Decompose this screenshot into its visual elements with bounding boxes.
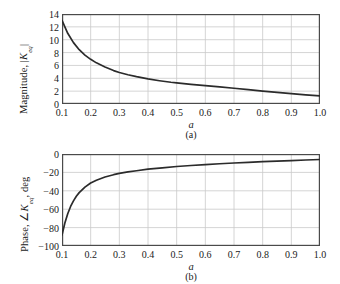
x-tick-a-1: 0.2 [84, 107, 97, 118]
x-tick-b-7: 0.8 [256, 249, 269, 260]
y-axis-symbol-a: K [18, 53, 29, 60]
x-tick-b-8: 0.9 [285, 249, 298, 260]
x-tick-a-3: 0.4 [142, 107, 155, 118]
y-axis-label-suffix-b: , deg [19, 177, 30, 198]
y-axis-angle-icon: ∠ [19, 211, 30, 221]
y-axis-subscript-b: eq [27, 198, 35, 205]
x-tick-a-9: 1.0 [314, 107, 327, 118]
caption-b: (b) [185, 271, 197, 282]
x-tick-a-0: 0.1 [56, 107, 69, 118]
y-tick-a-14: 14 [49, 9, 59, 20]
x-tick-a-6: 0.7 [228, 107, 241, 118]
y-axis-bar-open-a: | [18, 60, 29, 62]
x-tick-a-2: 0.3 [113, 107, 126, 118]
y-tick-a-6: 6 [54, 60, 59, 71]
magnitude-chart-svg [62, 14, 320, 104]
y-axis-label-magnitude: Magnitude, |Keq| [18, 44, 32, 114]
phase-chart-svg [62, 154, 320, 246]
y-tick-b-m20: −20 [43, 167, 59, 178]
panel-magnitude: Magnitude, |Keq| 14 12 10 8 6 4 2 0 0.1 … [0, 0, 340, 142]
x-tick-a-5: 0.6 [199, 107, 212, 118]
panel-phase: Phase, ∠Keq, deg 0 −20 −40 −60 −80 −100 … [0, 142, 340, 284]
x-tick-a-8: 0.9 [285, 107, 298, 118]
y-axis-symbol-b: K [19, 204, 30, 211]
x-tick-labels-a: 0.1 0.2 0.3 0.4 0.5 0.6 0.7 0.8 0.9 1.0 [0, 107, 340, 121]
x-tick-b-0: 0.1 [56, 249, 69, 260]
y-tick-a-10: 10 [49, 34, 59, 45]
x-tick-b-5: 0.6 [199, 249, 212, 260]
y-tick-a-12: 12 [49, 21, 59, 32]
y-tick-b-m60: −60 [43, 204, 59, 215]
figure-root: Magnitude, |Keq| 14 12 10 8 6 4 2 0 0.1 … [0, 0, 340, 284]
y-axis-label-phase: Phase, ∠Keq, deg [18, 177, 33, 252]
x-tick-a-7: 0.8 [256, 107, 269, 118]
caption-a: (a) [185, 129, 196, 140]
plot-area-magnitude [62, 14, 320, 104]
x-tick-b-1: 0.2 [84, 249, 97, 260]
x-tick-labels-b: 0.1 0.2 0.3 0.4 0.5 0.6 0.7 0.8 0.9 1.0 [0, 249, 340, 263]
plot-area-phase [62, 154, 320, 246]
y-tick-a-2: 2 [54, 86, 59, 97]
x-tick-b-4: 0.5 [170, 249, 183, 260]
y-tick-a-8: 8 [54, 47, 59, 58]
y-tick-b-0: 0 [54, 149, 59, 160]
x-tick-b-2: 0.3 [113, 249, 126, 260]
y-tick-a-4: 4 [54, 73, 59, 84]
y-axis-label-prefix-b: Phase, [19, 222, 30, 252]
y-tick-b-m80: −80 [43, 222, 59, 233]
y-axis-subscript-a: eq [26, 46, 34, 53]
x-tick-b-6: 0.7 [228, 249, 241, 260]
x-tick-a-4: 0.5 [170, 107, 183, 118]
x-tick-b-3: 0.4 [142, 249, 155, 260]
y-tick-b-m40: −40 [43, 185, 59, 196]
x-tick-b-9: 1.0 [314, 249, 327, 260]
